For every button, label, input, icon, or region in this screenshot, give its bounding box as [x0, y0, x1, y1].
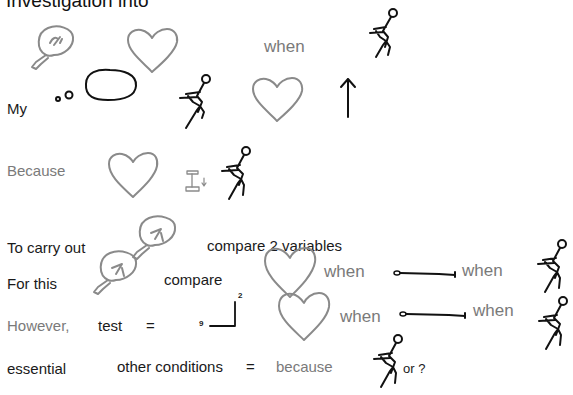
equals-sign: =	[246, 359, 255, 374]
because-text: because	[276, 359, 333, 374]
row-label-for-this: For this	[7, 276, 57, 291]
axis-y-label: 2	[238, 292, 242, 300]
heart-icon	[276, 292, 332, 342]
row-label-because: Because	[7, 163, 65, 178]
other-conditions-text: other conditions	[117, 359, 223, 374]
running-figure-icon	[366, 7, 398, 65]
when-label-a: when	[324, 263, 365, 280]
slide-title: Investigation into	[6, 0, 149, 10]
brain-icon	[88, 250, 140, 296]
running-figure-icon	[219, 145, 253, 201]
thought-bubble-icon	[53, 68, 138, 104]
brain-icon	[26, 25, 76, 70]
test-text: test	[98, 318, 122, 333]
row-label-essential: essential	[7, 361, 66, 376]
or-question-text: or ?	[403, 362, 425, 375]
up-arrow-icon	[338, 77, 358, 119]
when-label-d: when	[473, 302, 514, 319]
weight-icon	[184, 169, 208, 193]
running-figure-icon	[535, 238, 569, 294]
row-label-however: However,	[7, 318, 70, 333]
long-arrow-icon	[393, 268, 459, 280]
row-label-to-carry-out: To carry out	[7, 240, 85, 255]
equals-sign: =	[146, 318, 155, 333]
when-label: when	[264, 38, 305, 55]
running-figure-icon	[371, 333, 405, 389]
row-label-my: My	[7, 101, 27, 116]
heart-icon	[250, 77, 305, 123]
heart-icon	[107, 152, 159, 199]
when-label-c: when	[340, 308, 381, 325]
long-arrow-icon	[399, 309, 469, 321]
running-figure-icon	[536, 295, 570, 351]
axis-x-label: 9	[199, 320, 203, 328]
running-figure-icon	[178, 72, 214, 130]
compare-text: compare	[164, 272, 222, 287]
when-label-b: when	[462, 262, 503, 279]
